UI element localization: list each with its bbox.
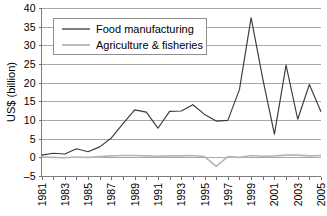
y-tick-label: 0 [30, 151, 36, 163]
y-tick-label: 20 [24, 77, 36, 89]
x-tick-label-1987: 1987 [105, 183, 117, 207]
y-tick-label: 40 [24, 2, 36, 14]
y-tick-label: –5 [24, 170, 36, 182]
figure-caption-clipped [0, 205, 327, 216]
legend-label-food-manufacturing: Food manufacturing [96, 23, 194, 35]
line-chart-canvas: 4035302520151050–5 198119831985198719891… [0, 0, 327, 216]
x-tick-label-1997: 1997 [222, 183, 234, 207]
y-axis-group: 4035302520151050–5 [24, 2, 42, 182]
y-tick-label-group: 4035302520151050–5 [24, 2, 36, 182]
x-tick-label-1981: 1981 [36, 183, 48, 207]
legend: Food manufacturing Agriculture & fisheri… [54, 19, 207, 55]
series-line-agriculture-fisheries [42, 155, 322, 166]
x-tick-label-2001: 2001 [268, 183, 280, 207]
y-tick-label: 5 [30, 133, 36, 145]
x-tick-label-1993: 1993 [175, 183, 187, 207]
chart-figure: 4035302520151050–5 198119831985198719891… [0, 0, 327, 216]
x-tick-label-2003: 2003 [292, 183, 304, 207]
x-tick-group [43, 177, 322, 180]
y-tick-label: 35 [24, 21, 36, 33]
legend-label-agriculture-fisheries: Agriculture & fisheries [96, 39, 203, 51]
y-tick-label: 30 [24, 39, 36, 51]
x-tick-label-1999: 1999 [245, 183, 257, 207]
x-tick-label-1985: 1985 [82, 183, 94, 207]
y-tick-label: 25 [24, 58, 36, 70]
y-tick-label: 15 [24, 95, 36, 107]
x-tick-label-group: 1981198319851987198919911993199519971999… [36, 183, 327, 207]
y-axis-title: US$ (billion) [5, 62, 17, 122]
x-tick-label-1989: 1989 [129, 183, 141, 207]
y-tick-label: 10 [24, 114, 36, 126]
x-tick-label-1991: 1991 [152, 183, 164, 207]
x-tick-label-1983: 1983 [59, 183, 71, 207]
x-tick-label-2005: 2005 [315, 183, 327, 207]
x-tick-label-1995: 1995 [199, 183, 211, 207]
x-axis-group: 1981198319851987198919911993199519971999… [36, 177, 327, 207]
